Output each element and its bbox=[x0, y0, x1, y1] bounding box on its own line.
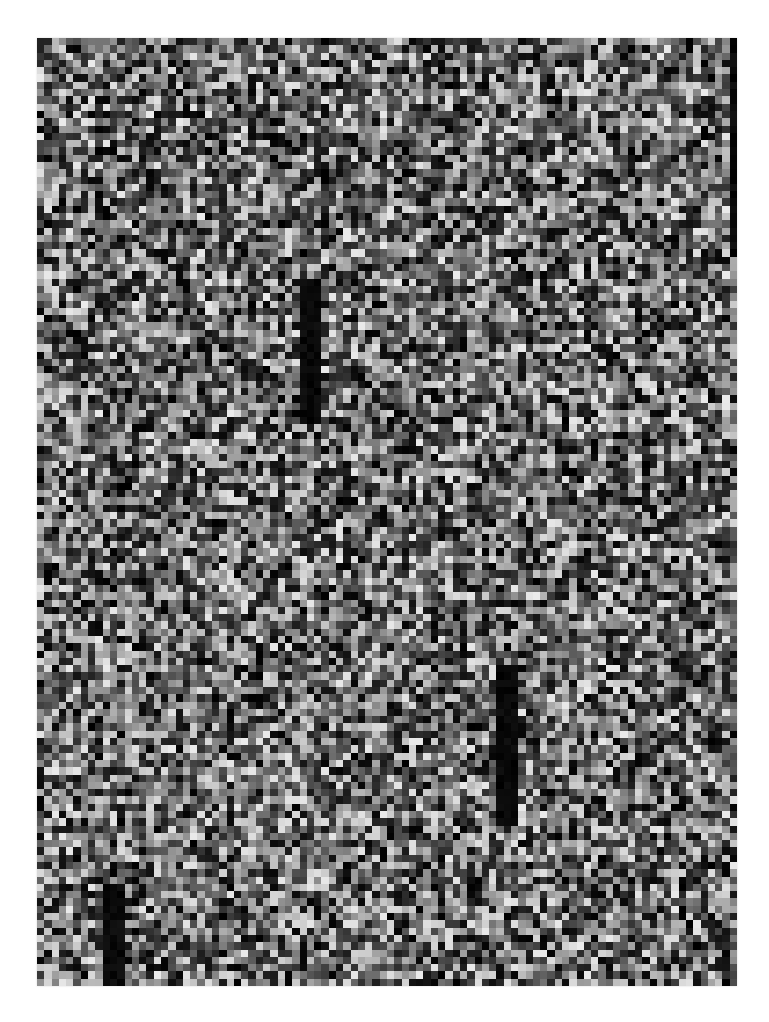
noise-image bbox=[37, 38, 737, 986]
noise-canvas bbox=[37, 38, 737, 986]
